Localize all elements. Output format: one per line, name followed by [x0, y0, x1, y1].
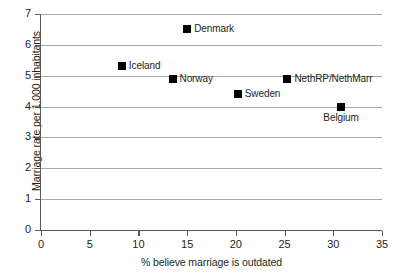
x-tick-label: 20 — [221, 238, 251, 250]
x-tick-mark — [236, 231, 237, 236]
data-point-marker — [283, 75, 291, 83]
x-tick-label: 5 — [75, 238, 105, 250]
gridline — [41, 137, 382, 138]
data-point-label: Denmark — [194, 23, 234, 34]
x-tick-label: 15 — [172, 238, 202, 250]
x-tick-mark — [382, 231, 383, 236]
x-tick-label: 30 — [318, 238, 348, 250]
data-point-label: Norway — [180, 73, 213, 84]
data-point-label: NethRP/NethMarr — [294, 73, 372, 84]
data-point-marker — [118, 62, 126, 70]
gridline — [41, 14, 382, 15]
y-tick-mark — [35, 107, 40, 108]
gridline — [41, 45, 382, 46]
x-tick-mark — [138, 231, 139, 236]
x-tick-mark — [41, 231, 42, 236]
x-axis-line — [41, 230, 382, 231]
x-tick-label: 25 — [270, 238, 300, 250]
scatter-chart: Marriage rate per 1,000 inhabitants % be… — [0, 0, 393, 278]
data-point-label: Sweden — [245, 88, 281, 99]
y-tick-mark — [35, 137, 40, 138]
plot-area: DenmarkIcelandNorwaySwedenNethRP/NethMar… — [41, 14, 382, 230]
y-tick-label: 4 — [0, 100, 31, 112]
y-tick-label: 5 — [0, 69, 31, 81]
gridline — [41, 168, 382, 169]
data-point-label: Belgium — [323, 112, 358, 123]
x-tick-mark — [333, 231, 334, 236]
data-point-marker — [169, 75, 177, 83]
y-tick-mark — [35, 168, 40, 169]
y-tick-label: 0 — [0, 223, 31, 235]
y-tick-label: 1 — [0, 192, 31, 204]
x-tick-label: 10 — [123, 238, 153, 250]
y-tick-label: 6 — [0, 38, 31, 50]
y-tick-label: 3 — [0, 130, 31, 142]
x-axis-title: % believe marriage is outdated — [41, 256, 382, 268]
y-tick-label: 7 — [0, 7, 31, 19]
x-tick-label: 35 — [367, 238, 393, 250]
data-point-label: Iceland — [129, 60, 161, 71]
x-tick-mark — [285, 231, 286, 236]
x-tick-label: 0 — [26, 238, 56, 250]
x-tick-mark — [90, 231, 91, 236]
data-point-marker — [234, 90, 242, 98]
y-tick-mark — [35, 199, 40, 200]
y-tick-label: 2 — [0, 161, 31, 173]
gridline — [41, 107, 382, 108]
y-tick-mark — [35, 76, 40, 77]
y-tick-mark — [35, 14, 40, 15]
x-tick-mark — [187, 231, 188, 236]
data-point-marker — [337, 103, 345, 111]
y-tick-mark — [35, 45, 40, 46]
data-point-marker — [183, 25, 191, 33]
gridline — [41, 199, 382, 200]
y-tick-mark — [35, 230, 40, 231]
